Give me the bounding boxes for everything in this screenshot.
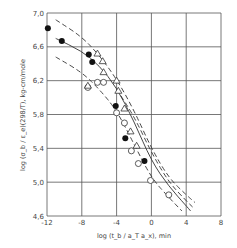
point-open-circle [166,192,172,198]
data-points [45,25,172,198]
grid [47,13,221,216]
x-tick-label: 8 [219,219,223,227]
y-tick-label: 5,8 [33,111,44,119]
point-open-triangle [99,58,106,64]
point-filled-circle [113,103,119,109]
curve-lower-dashed [56,57,182,211]
point-filled-circle [141,158,147,164]
x-tick-label: -4 [113,219,121,227]
x-tick-label: 4 [184,219,189,227]
y-tick-label: 5,0 [33,179,44,187]
point-open-circle [148,177,154,183]
y-tick-label: 7,0 [33,10,44,18]
point-open-triangle [100,69,107,75]
point-filled-circle [86,51,92,57]
point-open-circle [121,120,127,126]
y-tick-label: 5,4 [33,145,45,153]
point-filled-circle [89,59,95,65]
point-open-circle [101,79,107,85]
point-open-circle [128,148,134,154]
chart: -12-8-40484,65,05,45,86,26,67,0 log (t_b… [0,0,237,248]
point-filled-circle [45,25,51,31]
x-axis-label: log (t_b / a_T a_x), min [97,232,171,240]
y-tick-label: 6,6 [33,43,45,51]
point-open-circle [114,110,120,116]
y-axis-label: log (σ_b / ε_e)(298/T), kg-cm/mole [19,59,27,171]
point-open-circle [94,79,100,85]
point-open-circle [135,161,141,167]
y-tick-label: 6,2 [33,77,44,85]
point-open-triangle [113,77,120,83]
y-tick-label: 4,6 [33,213,45,221]
point-open-triangle [127,128,134,134]
x-tick-label: 0 [149,219,153,227]
point-filled-circle [122,135,128,141]
x-tick-label: -8 [78,219,85,227]
point-filled-circle [59,38,65,44]
